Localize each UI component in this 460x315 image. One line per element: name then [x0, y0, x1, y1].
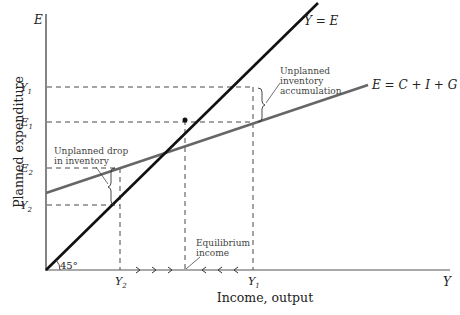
planned-expenditure-label: E = C + I + G [371, 78, 458, 92]
accumulation-leader [266, 83, 280, 103]
x-axis-label: Income, output [217, 290, 313, 305]
equilibrium-annotation-line1: Equilibrium [196, 238, 251, 248]
accumulation-brace [258, 88, 265, 122]
drop-brace [108, 168, 115, 205]
y2-tick-label: Y2 [20, 199, 32, 214]
accumulation-annotation-line1: Unplanned [280, 66, 330, 76]
accumulation-annotation-line2: inventory [280, 76, 324, 86]
drop-annotation-line1: Unplanned drop [54, 146, 128, 156]
equilibrium-point [183, 118, 188, 123]
x-y2-tick-label: Y2 [115, 275, 127, 290]
forty-five-line-label: Y = E [304, 14, 339, 28]
y-axis-label: Planned expenditure [11, 76, 26, 208]
equilibrium-leader [186, 257, 200, 269]
planned-expenditure-line [46, 85, 368, 193]
keynesian-cross-diagram: E Y Planned expenditure Income, output 4… [0, 0, 460, 315]
forty-five-degree-line [46, 3, 318, 270]
equilibrium-annotation-line2: income [196, 248, 229, 258]
e1-tick-label: E1 [20, 116, 34, 131]
x-y1-tick-label: Y1 [248, 275, 260, 290]
drop-annotation-line2: in inventory [54, 156, 110, 166]
angle-label: 45° [60, 260, 78, 271]
e2-tick-label: E2 [20, 162, 34, 177]
y-axis-symbol: E [33, 13, 43, 27]
y1-tick-label: Y1 [20, 81, 32, 96]
x-axis-symbol: Y [443, 275, 452, 289]
accumulation-annotation-line3: accumulation [280, 86, 342, 96]
